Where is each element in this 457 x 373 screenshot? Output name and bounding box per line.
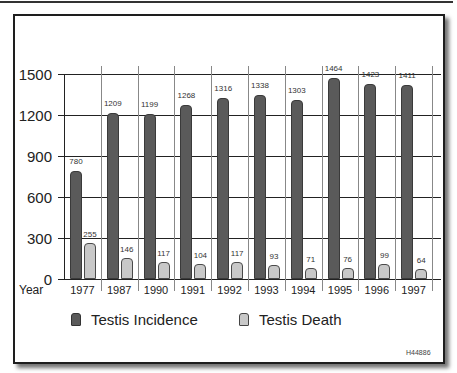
bar-death-1991 [194, 264, 206, 279]
x-tick-label: 1977 [70, 285, 94, 296]
bar-death-1993 [268, 265, 280, 279]
value-label-incidence: 1316 [214, 85, 232, 93]
x-tick-label: 1987 [107, 285, 131, 296]
value-label-incidence: 1338 [251, 82, 269, 90]
bar-death-1990 [158, 262, 170, 279]
value-label-incidence: 780 [69, 158, 82, 166]
value-label-death: 117 [231, 250, 244, 258]
gridline-v [248, 66, 249, 291]
value-label-death: 64 [417, 257, 426, 265]
gridline-v [211, 66, 212, 291]
y-tick-label: 1200 [0, 108, 52, 123]
x-tick-label: 1990 [144, 285, 168, 296]
value-label-death: 104 [194, 252, 207, 260]
y-axis [64, 74, 65, 279]
x-tick-label: 1996 [365, 285, 389, 296]
value-label-incidence: 1199 [141, 101, 158, 109]
figure-code: H44886 [406, 349, 431, 356]
value-label-death: 146 [120, 246, 133, 254]
value-label-incidence: 1268 [177, 92, 195, 100]
bar-incidence-1995 [328, 78, 340, 279]
bar-incidence-1990 [144, 114, 156, 279]
plot-area: 7802551209146119911712681041316117133893… [64, 74, 437, 279]
y-tick-label: 300 [0, 231, 52, 246]
x-tick-label: 1995 [328, 285, 352, 296]
top-rule [0, 1, 453, 3]
value-label-incidence: 1464 [325, 65, 343, 73]
gridline-v [395, 66, 396, 291]
x-tick-label: 1993 [254, 285, 278, 296]
bar-death-1997 [415, 269, 427, 279]
x-axis [58, 279, 441, 280]
gridline-v [101, 66, 102, 291]
value-label-death: 76 [343, 256, 352, 264]
value-label-death: 117 [157, 250, 170, 258]
x-tick-label: 1997 [401, 285, 425, 296]
bar-death-1994 [305, 268, 317, 279]
value-label-death: 99 [380, 252, 389, 260]
y-tick-label: 600 [0, 190, 52, 205]
y-tick-label: 1500 [0, 67, 52, 82]
gridline-v [138, 66, 139, 291]
x-tick-label: 1992 [217, 285, 241, 296]
bar-death-1996 [378, 264, 390, 279]
bar-incidence-1994 [291, 100, 303, 279]
gridline-v [174, 66, 175, 291]
x-axis-title: Year [19, 284, 43, 296]
legend-swatch-death [239, 313, 249, 326]
value-label-incidence: 1303 [288, 87, 306, 95]
gridline-h [58, 74, 441, 75]
legend-label-incidence: Testis Incidence [91, 312, 198, 327]
bar-incidence-1992 [217, 98, 229, 279]
value-label-incidence: 1423 [361, 71, 379, 79]
bar-death-1995 [342, 268, 354, 279]
gridline-v [285, 66, 286, 291]
bar-incidence-1993 [254, 95, 266, 279]
value-label-incidence: 1411 [399, 72, 416, 80]
value-label-death: 71 [306, 256, 315, 264]
gridline-v [322, 66, 323, 291]
legend-swatch-incidence [71, 313, 81, 326]
x-tick-label: 1994 [291, 285, 315, 296]
value-label-death: 255 [83, 231, 96, 239]
gridline-v [358, 66, 359, 291]
bar-death-1992 [231, 262, 243, 279]
bar-incidence-1997 [401, 85, 413, 279]
gridline-v [432, 66, 433, 291]
bar-incidence-1987 [107, 113, 119, 279]
value-label-incidence: 1209 [104, 100, 122, 108]
bar-death-1977 [84, 243, 96, 279]
value-label-death: 93 [270, 253, 279, 261]
bar-incidence-1991 [180, 105, 192, 279]
bar-incidence-1996 [364, 84, 376, 279]
legend-label-death: Testis Death [259, 312, 342, 327]
bar-incidence-1977 [70, 171, 82, 279]
bar-death-1987 [121, 258, 133, 279]
x-tick-label: 1991 [181, 285, 205, 296]
y-tick-label: 900 [0, 149, 52, 164]
